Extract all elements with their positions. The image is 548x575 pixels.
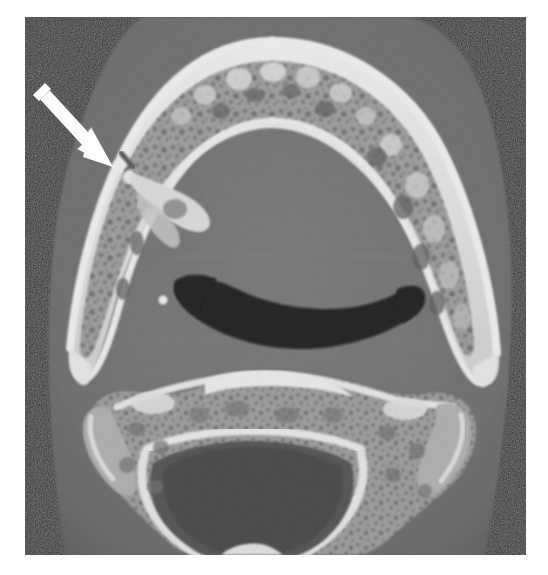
ct-scan-canvas [25, 17, 526, 555]
ct-figure: Face / submandibular soft tissue Left ma… [0, 0, 548, 575]
ct-scan-image [25, 17, 526, 555]
ct-noise-overlay [25, 17, 526, 555]
